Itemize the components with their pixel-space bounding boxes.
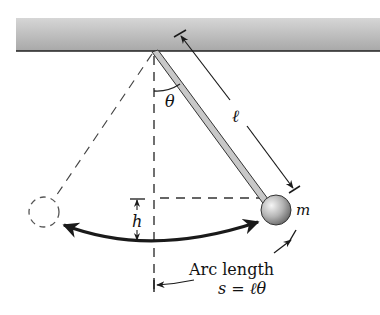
height-label: h (132, 212, 142, 231)
length-label: ℓ (232, 106, 239, 126)
arc-length-title: Arc length (188, 260, 274, 279)
arc-length-formula: s = ℓθ (218, 279, 266, 298)
swing-extreme-line (54, 54, 152, 199)
theta-label: θ (165, 92, 175, 111)
mass-label: m (296, 201, 310, 219)
ghost-bob (29, 197, 59, 227)
pendulum-bob (261, 195, 291, 225)
pendulum-rod (152, 50, 271, 206)
ceiling-support (16, 18, 380, 51)
swing-arc (64, 222, 258, 241)
pendulum-diagram: θ ℓ m h Arc length s = ℓθ (0, 0, 380, 315)
